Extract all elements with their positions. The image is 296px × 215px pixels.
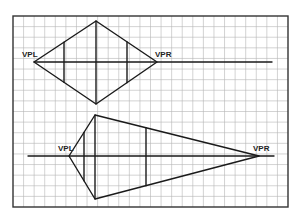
bottom-vertical-edges: [84, 115, 146, 199]
perspective-diagram: VPL VPR VPL VPR: [0, 0, 296, 215]
bottom-vpr-label: VPR: [253, 144, 270, 153]
top-figure: VPL VPR: [22, 21, 272, 104]
bottom-figure: VPL VPR: [28, 115, 274, 199]
top-vpr-label: VPR: [155, 50, 172, 59]
top-vpl-label: VPL: [22, 50, 38, 59]
graph-paper-grid: [13, 16, 288, 207]
bottom-vpl-label: VPL: [58, 144, 74, 153]
